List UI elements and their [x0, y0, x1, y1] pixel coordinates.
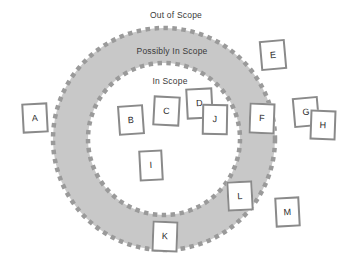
scope-diagram: Out of ScopePossibly In ScopeIn Scope AB… — [0, 0, 351, 265]
zone-label-possibly-in-scope: Possibly In Scope — [137, 46, 208, 56]
item-box-label: B — [128, 115, 135, 124]
item-box-label: J — [213, 115, 218, 124]
item-box-i[interactable]: I — [138, 149, 164, 181]
item-box-b[interactable]: B — [117, 104, 145, 136]
item-box-a[interactable]: A — [21, 102, 49, 133]
item-box-l[interactable]: L — [226, 180, 254, 211]
item-box-m[interactable]: M — [274, 196, 301, 227]
zone-label-out-of-scope: Out of Scope — [150, 10, 202, 20]
item-box-c[interactable]: C — [152, 95, 181, 126]
zone-label-in-scope: In Scope — [152, 76, 187, 86]
item-box-label: M — [283, 207, 291, 216]
item-box-label: A — [32, 113, 39, 122]
item-box-e[interactable]: E — [259, 39, 288, 71]
item-box-h[interactable]: H — [309, 110, 336, 141]
item-box-f[interactable]: F — [248, 103, 275, 135]
item-box-label: L — [237, 191, 243, 200]
item-box-label: C — [163, 106, 170, 115]
item-box-label: K — [162, 232, 169, 241]
item-box-j[interactable]: J — [202, 104, 229, 135]
item-box-label: H — [319, 120, 326, 129]
item-box-label: G — [302, 107, 310, 117]
item-box-label: I — [149, 161, 152, 170]
item-box-label: E — [270, 50, 277, 60]
item-box-k[interactable]: K — [151, 221, 178, 253]
item-box-label: F — [259, 114, 265, 123]
